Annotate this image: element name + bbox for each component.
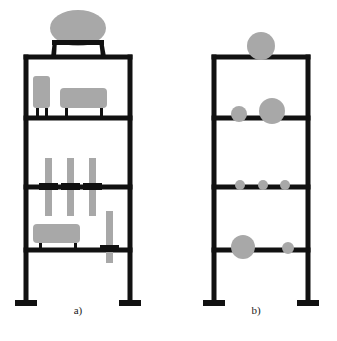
tall-block-level1-foot-2 xyxy=(45,108,48,118)
frame-footing-left xyxy=(203,300,225,306)
hanging-rod-2-anchor-plate xyxy=(61,183,80,190)
mass-level3-left xyxy=(235,180,245,190)
frame-beam-level-2 xyxy=(24,116,133,121)
tall-block-level1-foot-1 xyxy=(36,108,39,118)
frame-footing-right xyxy=(297,300,319,306)
frame-beam-level-4 xyxy=(212,248,311,253)
mass-level1-center xyxy=(247,32,275,60)
hanging-rod-4-anchor-plate xyxy=(100,245,119,252)
wide-block-level1-foot-2 xyxy=(100,108,103,118)
mass-level2-center xyxy=(259,98,285,124)
wide-block-level1-foot-1 xyxy=(65,108,68,118)
figure-root: a) b) xyxy=(0,0,337,341)
wide-block-level4-foot-2 xyxy=(74,243,77,250)
roof-tank-assembly-a xyxy=(50,10,106,57)
frame-right-column xyxy=(128,55,133,301)
tall-block-level1 xyxy=(33,76,50,108)
hanging-rod-1-anchor-plate xyxy=(39,183,58,190)
panel-b-caption: b) xyxy=(251,304,261,317)
mass-level4-left xyxy=(231,235,255,259)
frame-left-column xyxy=(212,55,217,301)
frame-right-column xyxy=(306,55,311,301)
wide-block-level4 xyxy=(33,224,80,243)
mass-level4-right xyxy=(282,242,294,254)
mass-level3-right xyxy=(280,180,290,190)
hanging-rods-a xyxy=(39,158,119,263)
hanging-rod-4 xyxy=(106,211,113,263)
panel-b: b) xyxy=(203,32,319,317)
frame-left-column xyxy=(24,55,29,301)
lumped-mass-markers-b xyxy=(231,32,294,259)
hanging-rod-3-anchor-plate xyxy=(83,183,102,190)
mass-level2-left xyxy=(231,106,247,122)
frame-footing-left xyxy=(15,300,37,306)
frame-footing-right xyxy=(119,300,141,306)
structural-frame-figure: a) b) xyxy=(0,0,337,341)
frame-beam-level-1 xyxy=(24,55,133,60)
tank-base-plate xyxy=(52,40,104,45)
panel-a: a) xyxy=(15,10,141,317)
frame-skeleton-b xyxy=(203,55,319,307)
mass-level3-center xyxy=(258,180,268,190)
wide-block-level1 xyxy=(60,88,107,108)
wide-block-level4-foot-1 xyxy=(39,243,42,250)
panel-a-caption: a) xyxy=(74,304,83,317)
